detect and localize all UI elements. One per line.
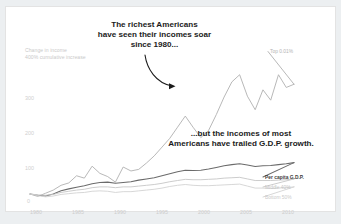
headline-annotation-line1: The richest Americans <box>82 20 227 30</box>
axis-title-line2: 400% cumulative increase <box>25 54 86 61</box>
series-line-bottom-50 <box>30 184 294 197</box>
x-tick-2010: 2010 <box>282 209 294 215</box>
y-tick-0: 0 <box>27 198 30 204</box>
series-label-top-0-01: Top 0.01% <box>270 49 293 54</box>
series-layer <box>30 52 294 198</box>
x-tick-2005: 2005 <box>240 209 252 215</box>
headline-annotation-line3: since 1980... <box>82 40 227 50</box>
headline-annotation-line2: have seen their incomes soar <box>82 30 227 40</box>
y-tick-200: 200 <box>25 130 34 136</box>
axis-title-line1: Change in income <box>25 47 67 54</box>
x-tick-1990: 1990 <box>114 209 126 215</box>
series-label-per-capita-gdp: Per capita G.D.P. <box>265 175 304 180</box>
arrow-head-icon <box>169 83 176 89</box>
x-tick-2000: 2000 <box>198 209 210 215</box>
x-tick-1995: 1995 <box>156 209 168 215</box>
series-label-middle-40: Middle 40% <box>265 185 291 190</box>
series-label-bottom-50: Bottom 50% <box>265 195 292 200</box>
series-line-middle-40 <box>30 177 294 195</box>
secondary-annotation-line2: Americans have trailed G.D.P. growth. <box>161 139 321 149</box>
curved-arrow-icon <box>145 55 172 86</box>
chart-card: Change in income 400% cumulative increas… <box>5 6 336 212</box>
annotation-arrow-layer <box>145 55 176 89</box>
y-tick-100: 100 <box>25 165 34 171</box>
x-tick-1980: 1980 <box>30 209 42 215</box>
x-tick-1985: 1985 <box>72 209 84 215</box>
secondary-annotation-line1: ...but the incomes of most <box>161 129 321 139</box>
y-tick-300: 300 <box>25 95 34 101</box>
